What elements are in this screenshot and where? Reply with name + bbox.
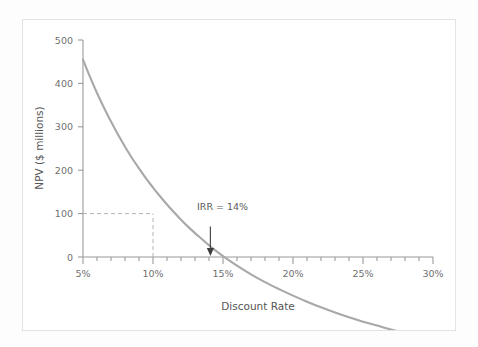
y-tick-label: 400: [55, 78, 73, 89]
npv-profile-chart: 0100200300400500 5%10%15%20%25%30% IRR =…: [23, 20, 455, 330]
y-tick-label: 300: [55, 121, 73, 132]
irr-annotation-label: IRR = 14%: [197, 201, 248, 212]
figure-frame: 0100200300400500 5%10%15%20%25%30% IRR =…: [22, 19, 456, 331]
figure-root: 0100200300400500 5%10%15%20%25%30% IRR =…: [0, 0, 478, 347]
x-axis-ticks: 5%10%15%20%25%30%: [75, 257, 443, 279]
npv-curve-line: [83, 60, 427, 330]
x-axis-title: Discount Rate: [221, 300, 295, 312]
irr-arrow-head: [207, 248, 214, 256]
y-axis-title: NPV ($ millions): [33, 106, 45, 189]
y-tick-label: 500: [55, 35, 73, 46]
irr-arrow-group: [207, 227, 214, 256]
y-axis-ticks: 0100200300400500: [55, 35, 83, 263]
y-tick-label: 200: [55, 165, 73, 176]
x-tick-label: 20%: [282, 268, 303, 279]
y-tick-label: 0: [67, 252, 73, 263]
x-tick-label: 10%: [142, 268, 163, 279]
guide-lines-group: [83, 214, 153, 257]
x-tick-label: 25%: [352, 268, 373, 279]
x-tick-label: 15%: [212, 268, 233, 279]
axes-group: [83, 40, 433, 257]
x-tick-label: 30%: [422, 268, 443, 279]
y-tick-label: 100: [55, 208, 73, 219]
x-tick-label: 5%: [75, 268, 90, 279]
series-group: [83, 60, 427, 330]
